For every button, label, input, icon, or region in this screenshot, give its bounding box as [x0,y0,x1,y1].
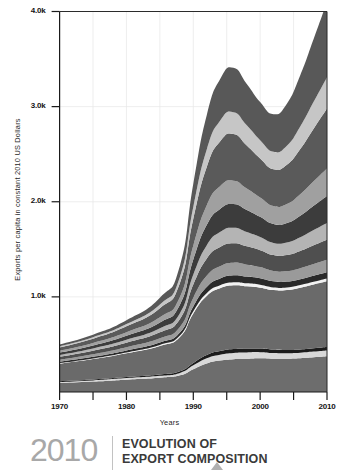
footer-title: EVOLUTION OF EXPORT COMPOSITION [122,437,268,466]
x-tick-label: 2010 [310,402,339,411]
x-axis-label: Years [0,418,339,427]
x-tick-label: 1980 [109,402,143,411]
footer-divider [112,436,113,470]
x-tick-label: 1990 [176,402,210,411]
triangle-up-icon [211,462,223,470]
x-tick-label: 1970 [43,402,77,411]
x-tick-label: 2000 [243,402,277,411]
footer-year: 2010 [30,434,97,466]
footer-title-line1: EVOLUTION OF [122,437,268,452]
y-tick-label: 3.0k [12,101,46,110]
chart-figure: Exports per capita in constant 2010 US D… [0,0,339,476]
y-tick-label: 2.0k [12,196,46,205]
footer-title-line2: EXPORT COMPOSITION [122,452,268,467]
y-tick-label: 4.0k [12,6,46,15]
y-tick-label: 1.0k [12,291,46,300]
